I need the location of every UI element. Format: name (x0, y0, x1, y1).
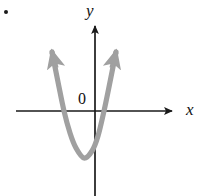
y-axis-label: y (86, 2, 94, 19)
origin-label: 0 (78, 91, 86, 107)
x-axis-label: x (186, 101, 194, 118)
coordinate-plane-svg (0, 0, 199, 196)
parabola-figure: y x 0 (0, 0, 199, 196)
